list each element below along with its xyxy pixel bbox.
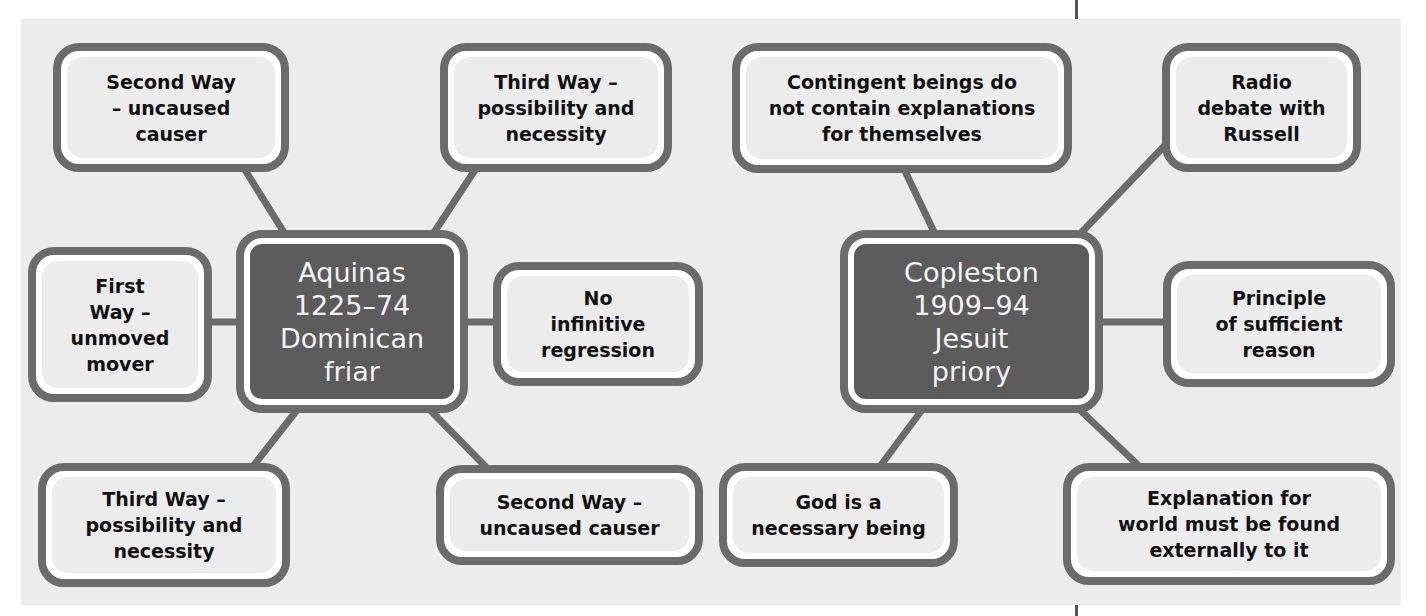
node-aquinas-center: Aquinas 1225–74 Dominican friar [236,230,468,413]
node-copleston-center: Copleston 1909–94 Jesuit priory [840,230,1103,413]
node-label: No infinitive regression [507,276,689,372]
node-label: Third Way – possibility and necessity [52,477,276,573]
node-first-way: First Way – unmoved mover [28,247,212,402]
connector-copleston-god [881,410,922,465]
node-label: Radio debate with Russell [1176,57,1347,158]
node-principle-sufficient-reason: Principle of sufficient reason [1163,261,1395,387]
node-second-way-top: Second Way – uncaused causer [53,43,289,172]
connector-aquinas-third-way-bottom [254,410,297,465]
node-radio-debate: Radio debate with Russell [1162,43,1361,172]
node-third-way-top: Third Way – possibility and necessity [440,43,672,172]
node-god-necessary-being: God is a necessary being [719,463,958,567]
node-label: God is a necessary being [733,477,944,553]
node-second-way-bottom: Second Way – uncaused causer [436,465,703,565]
node-third-way-bottom: Third Way – possibility and necessity [38,463,290,587]
node-label: Contingent beings do not contain explana… [746,57,1058,159]
node-no-infinitive-regression: No infinitive regression [493,262,703,386]
connector-aquinas-third-way-top [433,170,475,234]
connector-aquinas-second-way-bottom [430,410,486,467]
node-label: Principle of sufficient reason [1177,275,1381,373]
node-label: Second Way – uncaused causer [67,57,275,158]
connector-copleston-radio [1080,140,1170,234]
connector-copleston-contingent [905,171,935,234]
node-explanation-external: Explanation for world must be found exte… [1063,463,1395,585]
node-contingent-beings: Contingent beings do not contain explana… [732,43,1072,173]
node-label: Copleston 1909–94 Jesuit priory [854,244,1089,399]
node-label: Second Way – uncaused causer [450,479,689,551]
connector-aquinas-second-way-top [245,170,285,234]
node-label: Aquinas 1225–74 Dominican friar [250,244,454,399]
node-label: Third Way – possibility and necessity [454,57,658,158]
node-label: Explanation for world must be found exte… [1077,477,1381,571]
node-label: First Way – unmoved mover [42,261,198,388]
connector-copleston-explanation [1080,410,1138,465]
